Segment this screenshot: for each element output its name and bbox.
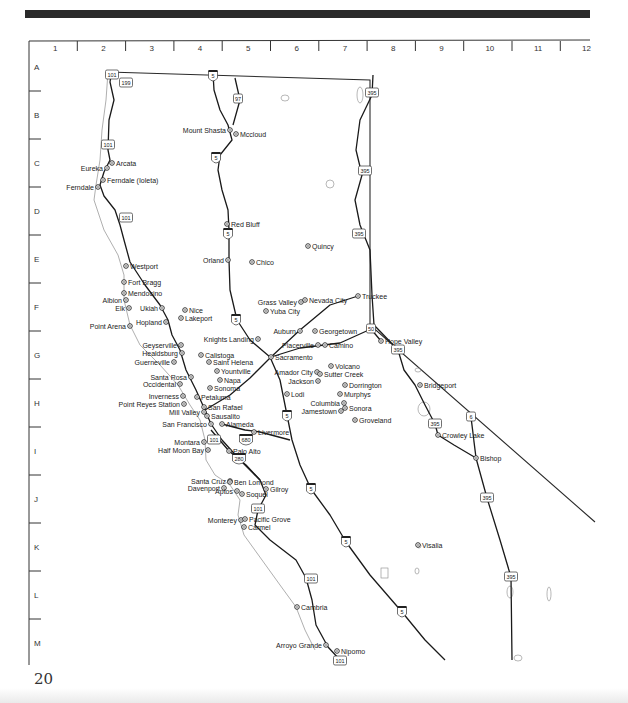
city-marker: Santa Cruz bbox=[191, 478, 232, 485]
city-marker: Soquel bbox=[240, 491, 269, 499]
city-label: Elk bbox=[115, 305, 125, 312]
city-label: Livermore bbox=[258, 429, 289, 436]
shield-number: 395 bbox=[482, 495, 491, 501]
shield-number: 50 bbox=[368, 326, 374, 332]
city-marker: Mccloud bbox=[234, 131, 266, 138]
city-marker: Sonoma bbox=[208, 385, 240, 392]
interstate-shield-icon: 5 bbox=[224, 228, 233, 239]
shield-number: 5 bbox=[285, 413, 288, 419]
city-marker: Sacramento bbox=[269, 354, 313, 361]
city-marker: Aptos bbox=[215, 488, 239, 496]
city-marker: Visalia bbox=[416, 542, 443, 549]
us-route-shield-icon: 395 bbox=[392, 345, 405, 354]
city-marker: Jackson bbox=[288, 378, 320, 385]
city-label: Palo Alto bbox=[233, 448, 261, 455]
city-label: Arcata bbox=[116, 160, 136, 167]
column-label: 7 bbox=[343, 44, 348, 53]
city-label: Red Bluff bbox=[231, 221, 260, 228]
shield-number: 101 bbox=[103, 142, 112, 148]
us-route-shield-icon: 101 bbox=[120, 213, 133, 222]
city-marker: Jamestown bbox=[302, 408, 344, 415]
us-route-shield-icon: 6 bbox=[467, 412, 476, 421]
us-route-shield-icon: 101 bbox=[252, 504, 265, 513]
city-label: Eureka bbox=[81, 165, 103, 172]
city-label: Monterey bbox=[208, 517, 238, 525]
city-marker: Fort Bragg bbox=[122, 279, 161, 287]
city-marker: San Rafael bbox=[202, 404, 243, 411]
us-route-shield-icon: 395 bbox=[481, 493, 494, 502]
city-marker: Bridgeport bbox=[418, 382, 457, 390]
row-label: K bbox=[34, 543, 40, 552]
shield-number: 280 bbox=[234, 456, 243, 462]
us-route-shield-icon: 395 bbox=[359, 166, 372, 175]
shield-number: 395 bbox=[393, 347, 402, 353]
city-marker: Grass Valley bbox=[258, 299, 303, 307]
city-marker: Ferndale (Ioleta) bbox=[101, 177, 159, 185]
column-label: 9 bbox=[439, 44, 444, 53]
city-marker: Ben Lomond bbox=[228, 479, 274, 486]
city-marker: Yountville bbox=[215, 368, 251, 375]
column-label: 10 bbox=[485, 44, 494, 53]
city-label: Sausalito bbox=[211, 413, 240, 420]
city-marker: Arcata bbox=[110, 160, 137, 167]
shield-number: 5 bbox=[214, 155, 217, 161]
city-label: Yuba City bbox=[270, 308, 300, 316]
city-label: Montara bbox=[174, 439, 200, 446]
city-marker: Yuba City bbox=[264, 308, 301, 316]
row-label: J bbox=[34, 495, 38, 504]
city-marker: Guerneville bbox=[135, 359, 177, 366]
city-label: Placerville bbox=[282, 342, 314, 349]
city-label: Grass Valley bbox=[258, 299, 298, 307]
city-label: Murphys bbox=[344, 391, 371, 399]
us-route-shield-icon: 101 bbox=[208, 435, 221, 444]
city-marker: Volcano bbox=[329, 363, 360, 370]
city-marker: Inverness bbox=[149, 393, 186, 400]
us-route-shield-icon: 50 bbox=[367, 324, 376, 333]
row-label: H bbox=[34, 399, 40, 408]
us-route-shield-icon: 395 bbox=[505, 572, 518, 581]
city-marker: Montara bbox=[174, 439, 206, 446]
city-label: Quincy bbox=[312, 243, 334, 251]
city-marker: Elk bbox=[115, 305, 131, 312]
city-label: Bishop bbox=[480, 455, 502, 463]
city-marker: Nevada City bbox=[303, 297, 348, 305]
city-label: Lodi bbox=[291, 391, 305, 398]
city-marker: Placerville bbox=[282, 342, 320, 349]
column-label: 5 bbox=[246, 44, 251, 53]
grid-frame bbox=[29, 40, 590, 665]
city-marker: Petaluma bbox=[195, 394, 231, 401]
shield-number: 101 bbox=[107, 72, 116, 78]
city-label: Petaluma bbox=[201, 394, 231, 401]
interstate-shield-icon: 5 bbox=[209, 70, 218, 81]
city-label: Crowley Lake bbox=[442, 432, 485, 440]
city-label: Guerneville bbox=[135, 359, 171, 366]
shield-number: 101 bbox=[306, 576, 315, 582]
column-label: 6 bbox=[294, 44, 299, 53]
city-label: Mill Valley bbox=[169, 409, 200, 417]
city-marker: Occidental bbox=[143, 381, 182, 388]
city-label: Mount Shasta bbox=[183, 127, 226, 134]
city-label: Albion bbox=[103, 297, 123, 304]
city-label: Sonora bbox=[349, 405, 372, 412]
city-label: Pacific Grove bbox=[249, 516, 291, 523]
city-label: Volcano bbox=[335, 363, 360, 370]
column-label: 8 bbox=[391, 44, 396, 53]
city-marker: Crowley Lake bbox=[436, 432, 485, 440]
city-marker: Mendocino bbox=[122, 290, 163, 297]
city-label: Orland bbox=[203, 257, 224, 264]
city-label: Gilroy bbox=[270, 486, 289, 494]
city-label: Nipomo bbox=[341, 648, 365, 656]
city-label: Geyserville bbox=[142, 342, 177, 350]
city-label: Soquel bbox=[246, 491, 268, 499]
city-marker: Cambria bbox=[295, 604, 328, 611]
row-labels: ABCDEFGHIJKLM bbox=[34, 63, 41, 648]
city-label: Carmel bbox=[248, 524, 271, 531]
map-frame: 123456789101112 ABCDEFGHIJKLM 1011995973… bbox=[0, 0, 628, 703]
city-label: Ukiah bbox=[140, 305, 158, 312]
column-labels: 123456789101112 bbox=[53, 44, 592, 53]
us-route-shield-icon: 101 bbox=[102, 140, 115, 149]
city-marker: Bishop bbox=[474, 455, 502, 463]
city-marker: Half Moon Bay bbox=[158, 447, 210, 455]
shield-number: 5 bbox=[309, 486, 312, 492]
city-marker: Livermore bbox=[252, 429, 290, 436]
